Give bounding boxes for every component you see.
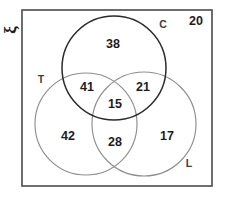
set-label-l: L bbox=[186, 157, 193, 169]
set-label-t: T bbox=[38, 73, 45, 85]
region-count-c-l: 21 bbox=[136, 80, 150, 94]
region-count-c-t: 41 bbox=[80, 80, 94, 94]
region-count-l-only: 17 bbox=[160, 129, 174, 143]
region-count-c-t-l: 15 bbox=[108, 97, 122, 111]
region-count-t-only: 42 bbox=[61, 129, 75, 143]
venn-diagram-container: ξ 20 C T L 38 41 21 15 42 28 17 bbox=[0, 0, 226, 199]
set-label-c: C bbox=[159, 18, 167, 30]
region-count-t-l: 28 bbox=[108, 135, 122, 149]
venn-diagram-svg: ξ 20 C T L 38 41 21 15 42 28 17 bbox=[0, 0, 226, 199]
universal-set-symbol: ξ bbox=[1, 26, 20, 34]
outside-region-count: 20 bbox=[189, 14, 203, 28]
region-count-c-only: 38 bbox=[106, 37, 120, 51]
